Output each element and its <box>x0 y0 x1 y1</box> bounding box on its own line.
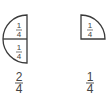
part-numerator: 1 <box>17 21 22 30</box>
part-numerator: 1 <box>88 21 93 30</box>
fraction-diagram: 1 4 1 4 2 4 1 4 1 4 <box>0 0 111 103</box>
part-denominator: 4 <box>17 52 22 61</box>
quarter-circle-part-1-label: 1 4 <box>87 21 93 39</box>
part-denominator: 4 <box>88 30 93 39</box>
half-circle-figure: 1 4 1 4 2 4 <box>3 15 27 96</box>
half-circle-part-1-label: 1 4 <box>16 21 22 39</box>
quarter-circle-shape <box>81 15 105 39</box>
part-denominator: 4 <box>17 30 22 39</box>
half-circle-part-2-label: 1 4 <box>16 43 22 61</box>
quarter-circle-caption: 1 4 <box>86 70 94 96</box>
quarter-circle-figure: 1 4 1 4 <box>81 15 105 96</box>
caption-denominator: 4 <box>87 82 94 96</box>
caption-denominator: 4 <box>16 82 23 96</box>
half-circle-caption: 2 4 <box>15 70 23 96</box>
part-numerator: 1 <box>17 43 22 52</box>
